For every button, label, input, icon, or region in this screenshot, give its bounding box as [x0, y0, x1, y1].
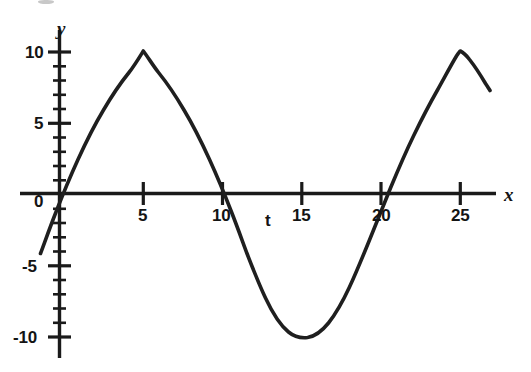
x-axis-label: x — [504, 185, 514, 204]
y-tick-label-minus-10: -10 — [13, 329, 37, 346]
y-tick-label-minus-5: -5 — [22, 258, 37, 275]
y-tick-label-5: 5 — [34, 115, 43, 132]
plot-svg — [0, 0, 531, 372]
y-tick-label-0: 0 — [34, 193, 43, 210]
x-tick-label-20: 20 — [372, 207, 391, 224]
y-tick-label-10: 10 — [25, 44, 44, 61]
y-axis-label: y — [57, 19, 65, 38]
graph-figure: 10 5 0 -5 -10 5 10 15 20 25 y x t — [0, 0, 531, 372]
independent-variable-label: t — [265, 212, 271, 229]
x-tick-label-10: 10 — [212, 207, 231, 224]
x-tick-label-25: 25 — [451, 207, 470, 224]
x-tick-label-15: 15 — [292, 207, 311, 224]
x-tick-label-5: 5 — [138, 207, 147, 224]
